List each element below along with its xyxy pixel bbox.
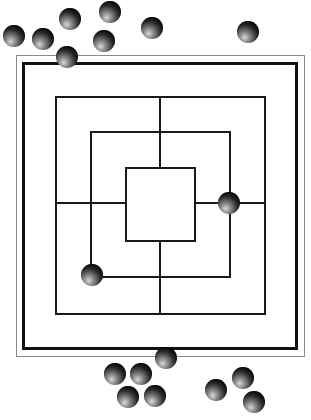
connector-left bbox=[55, 202, 126, 204]
board-piece[interactable] bbox=[56, 46, 78, 68]
reserve-piece-top[interactable] bbox=[99, 1, 121, 23]
reserve-piece-bottom[interactable] bbox=[144, 385, 166, 407]
reserve-piece-bottom[interactable] bbox=[130, 363, 152, 385]
reserve-piece-bottom[interactable] bbox=[104, 363, 126, 385]
board-piece[interactable] bbox=[81, 264, 103, 286]
reserve-piece-bottom[interactable] bbox=[117, 386, 139, 408]
inner-square bbox=[125, 167, 196, 242]
board-piece[interactable] bbox=[218, 192, 240, 214]
reserve-piece-top[interactable] bbox=[32, 28, 54, 50]
reserve-piece-top[interactable] bbox=[93, 30, 115, 52]
reserve-piece-bottom[interactable] bbox=[205, 379, 227, 401]
reserve-piece-top[interactable] bbox=[3, 25, 25, 47]
connector-bottom bbox=[159, 241, 161, 314]
reserve-piece-top[interactable] bbox=[141, 17, 163, 39]
connector-top bbox=[159, 96, 161, 168]
reserve-piece-bottom[interactable] bbox=[243, 391, 265, 413]
reserve-piece-bottom[interactable] bbox=[232, 367, 254, 389]
reserve-piece-top[interactable] bbox=[237, 21, 259, 43]
reserve-piece-bottom[interactable] bbox=[155, 347, 177, 369]
reserve-piece-top[interactable] bbox=[59, 8, 81, 30]
